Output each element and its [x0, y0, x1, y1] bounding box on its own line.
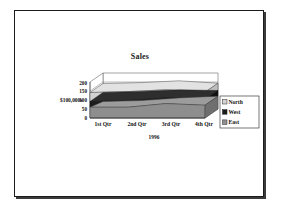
value-axis-tick-150: 150: [79, 88, 87, 94]
category-label-2: 2nd Qtr: [127, 121, 147, 127]
value-axis-tick-0: 0: [84, 115, 87, 121]
legend-item-east[interactable]: East: [223, 119, 240, 125]
category-label-3: 3rd Qtr: [162, 121, 181, 127]
legend-item-west[interactable]: West: [223, 109, 241, 115]
value-axis-tick-50: 50: [82, 106, 88, 112]
category-axis-title: 1996: [149, 134, 160, 140]
legend-swatch-east: [223, 120, 228, 125]
legend-label-north: North: [229, 99, 244, 105]
category-label-1: 1st Qtr: [95, 121, 112, 127]
legend-label-east: East: [229, 119, 240, 125]
legend-swatch-north: [223, 100, 228, 105]
chart-legend[interactable]: North West East: [220, 96, 259, 128]
chart-plot-area[interactable]: 200 150 100 50 0 $100,000s 1st Qtr 2nd Q…: [15, 11, 265, 198]
value-axis-title: $100,000s: [60, 97, 82, 103]
slide-frame[interactable]: Sales: [14, 10, 264, 197]
legend-item-north[interactable]: North: [223, 99, 244, 105]
chart-object[interactable]: Sales: [15, 11, 265, 198]
legend-label-west: West: [229, 109, 241, 115]
value-axis-tick-200: 200: [79, 80, 87, 86]
legend-swatch-west: [223, 110, 228, 115]
category-axis-labels: 1st Qtr 2nd Qtr 3rd Qtr 4th Qtr: [95, 121, 214, 127]
category-label-4: 4th Qtr: [195, 121, 213, 127]
